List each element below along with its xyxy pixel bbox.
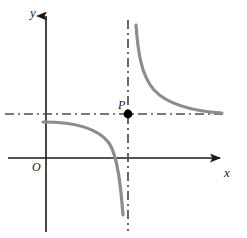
y-axis-label: y (30, 6, 36, 19)
curve-branch-upper-right (136, 25, 222, 113)
point-p-label: P (118, 99, 125, 111)
hyperbola-figure: y x O P (0, 0, 247, 238)
curve-branch-lower-left (43, 122, 123, 215)
origin-label: O (32, 161, 41, 173)
x-axis-label: x (224, 166, 230, 179)
plot-canvas (0, 0, 247, 238)
